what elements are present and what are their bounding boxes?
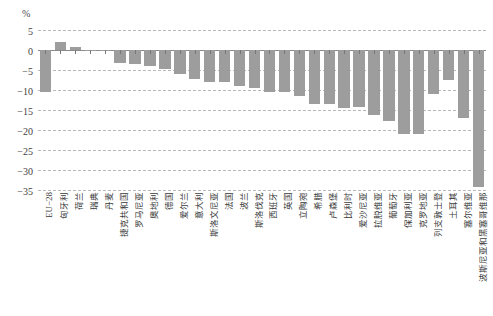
x-tick-mark (45, 50, 46, 54)
bar-slot (53, 30, 68, 190)
bar-slot (247, 30, 262, 190)
bar (338, 50, 349, 108)
bar-slot (157, 30, 172, 190)
x-tick-mark (225, 50, 226, 54)
bar-slot (381, 30, 396, 190)
x-tick-mark (479, 50, 480, 54)
x-tick-mark (359, 50, 360, 54)
x-tick-label: 波斯尼亚和黑塞哥维那 (479, 192, 488, 282)
bar-slot (217, 30, 232, 190)
x-label-slot: 保加利亚 (396, 190, 411, 314)
x-label-slot: 丹麦 (98, 190, 113, 314)
bar-slot (277, 30, 292, 190)
y-tick-label: −30 (17, 166, 33, 177)
bar (204, 50, 215, 82)
bar (473, 50, 484, 187)
bar-slot (187, 30, 202, 190)
y-tick-label: −25 (17, 146, 33, 157)
bar (353, 50, 364, 107)
x-tick-mark (419, 50, 420, 54)
bar-slot (202, 30, 217, 190)
x-tick-mark (105, 50, 106, 54)
bar-slot (322, 30, 337, 190)
x-label-slot: 罗马尼亚 (128, 190, 143, 314)
bar (234, 50, 245, 86)
y-tick-label: −5 (22, 66, 33, 77)
bar-slot (411, 30, 426, 190)
x-tick-mark (120, 50, 121, 54)
x-axis-labels: EU−28匈牙利荷兰瑞典丹麦捷克共和国罗马尼亚奥地利德国爱尔兰意大利斯洛文尼亚法… (38, 190, 486, 314)
bar-slot (426, 30, 441, 190)
x-tick-mark (464, 50, 465, 54)
x-tick-mark (374, 50, 375, 54)
bar-slot (98, 30, 113, 190)
x-label-slot: 荷兰 (68, 190, 83, 314)
bar-slot (337, 30, 352, 190)
x-tick-mark (389, 50, 390, 54)
x-label-slot: 波兰 (232, 190, 247, 314)
x-tick-mark (255, 50, 256, 54)
x-tick-mark (434, 50, 435, 54)
bar (219, 50, 230, 82)
x-label-slot: 爱尔兰 (172, 190, 187, 314)
x-tick-mark (165, 50, 166, 54)
x-label-slot: 捷克共和国 (113, 190, 128, 314)
y-tick-label: 5 (28, 26, 33, 37)
x-label-slot: 英国 (277, 190, 292, 314)
bar-slot (471, 30, 486, 190)
x-label-slot: 意大利 (187, 190, 202, 314)
x-tick-mark (284, 50, 285, 54)
bar-slot (113, 30, 128, 190)
x-tick-mark (269, 50, 270, 54)
x-label-slot: 克罗地亚 (411, 190, 426, 314)
x-tick-mark (210, 50, 211, 54)
bar (413, 50, 424, 134)
bar (428, 50, 439, 94)
x-tick-mark (135, 50, 136, 54)
x-label-slot: 斯洛文尼亚 (202, 190, 217, 314)
x-tick-mark (60, 50, 61, 54)
bar-slot (396, 30, 411, 190)
x-label-slot: 葡萄牙 (381, 190, 396, 314)
y-tick-label: 0 (28, 46, 33, 57)
bar-slot (143, 30, 158, 190)
x-label-slot: 塞尔维亚 (456, 190, 471, 314)
x-label-slot: 法国 (217, 190, 232, 314)
bar (294, 50, 305, 96)
x-label-slot: 列支敦士登 (426, 190, 441, 314)
bar (368, 50, 379, 115)
x-label-slot: 希腊 (307, 190, 322, 314)
bar-slot (292, 30, 307, 190)
x-tick-mark (299, 50, 300, 54)
bar-slot (128, 30, 143, 190)
x-label-slot: 斯洛伐克 (247, 190, 262, 314)
x-tick-mark (150, 50, 151, 54)
x-label-slot: 波斯尼亚和黑塞哥维那 (471, 190, 486, 314)
bar-slot (456, 30, 471, 190)
x-tick-mark (240, 50, 241, 54)
y-tick-label: −10 (17, 86, 33, 97)
x-tick-mark (329, 50, 330, 54)
bar-slot (83, 30, 98, 190)
x-label-slot: 拉脱维亚 (367, 190, 382, 314)
bar-slot (172, 30, 187, 190)
y-tick-label: −15 (17, 106, 33, 117)
bar-series (38, 30, 486, 190)
x-tick-mark (90, 50, 91, 54)
bar-slot (68, 30, 83, 190)
bar (443, 50, 454, 80)
bar-slot (441, 30, 456, 190)
bar-slot (352, 30, 367, 190)
bar-slot (307, 30, 322, 190)
bar (324, 50, 335, 104)
x-label-slot: 比利时 (337, 190, 352, 314)
bar (309, 50, 320, 104)
x-label-slot: 立陶宛 (292, 190, 307, 314)
x-tick-mark (449, 50, 450, 54)
bar (264, 50, 275, 92)
bar-slot (262, 30, 277, 190)
y-tick-label: −35 (17, 186, 33, 197)
bar-slot (38, 30, 53, 190)
x-label-slot: 德国 (157, 190, 172, 314)
bar-chart: % 50−5−10−15−20−25−30−35 EU−28匈牙利荷兰瑞典丹麦捷… (0, 0, 493, 316)
